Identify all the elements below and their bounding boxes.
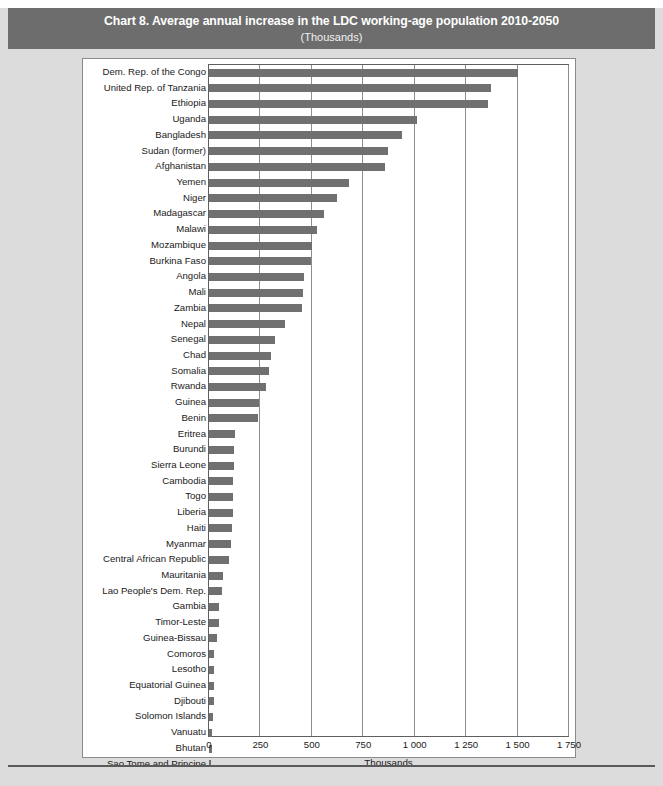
bar xyxy=(209,446,234,454)
bar xyxy=(209,619,219,627)
category-label: Senegal xyxy=(171,333,206,345)
bar-rows: Dem. Rep. of the CongoUnited Rep. of Tan… xyxy=(83,65,577,786)
bar-row: Afghanistan xyxy=(83,159,577,175)
bar-row: Malawi xyxy=(83,222,577,238)
category-label: Madagascar xyxy=(153,207,206,219)
bar xyxy=(209,430,235,438)
bar xyxy=(209,179,349,187)
category-label: Cambodia xyxy=(162,475,206,487)
category-label: Djibouti xyxy=(174,695,206,707)
bar xyxy=(209,603,219,611)
category-label: Sierra Leone xyxy=(151,459,206,471)
bar xyxy=(209,666,214,674)
category-label: Gambia xyxy=(172,600,206,612)
category-label: Rwanda xyxy=(171,380,206,392)
bar-row: Ethiopia xyxy=(83,96,577,112)
category-label: Uganda xyxy=(172,113,206,125)
category-label: Malawi xyxy=(176,223,206,235)
bar-row: Guinea xyxy=(83,395,577,411)
bar xyxy=(209,289,303,297)
bar xyxy=(209,163,385,171)
bar xyxy=(209,273,304,281)
category-label: Benin xyxy=(181,412,206,424)
page-top-margin xyxy=(0,0,663,8)
chart-title-band: Chart 8. Average annual increase in the … xyxy=(8,8,655,49)
bar xyxy=(209,304,302,312)
bar xyxy=(209,540,231,548)
bar-row: Zambia xyxy=(83,301,577,317)
category-label: Niger xyxy=(183,192,206,204)
category-label: Sudan (former) xyxy=(141,145,206,157)
bar xyxy=(209,210,324,218)
category-label: Timor-Leste xyxy=(155,616,206,628)
x-tick-label: 1 000 xyxy=(403,739,427,750)
bar xyxy=(209,509,233,517)
bar-row: Burkina Faso xyxy=(83,254,577,270)
bar-row: United Rep. of Tanzania xyxy=(83,81,577,97)
category-label: Eritrea xyxy=(178,428,206,440)
category-label: Burkina Faso xyxy=(149,255,206,267)
x-tick-label: 1 500 xyxy=(506,739,530,750)
category-label: Central African Republic xyxy=(103,553,206,565)
bar-row: Dem. Rep. of the Congo xyxy=(83,65,577,81)
bar-row: Central African Republic xyxy=(83,552,577,568)
bar-row: Myanmar xyxy=(83,537,577,553)
bar xyxy=(209,493,233,501)
bar-row: Eritrea xyxy=(83,427,577,443)
x-tick-label: 750 xyxy=(355,739,371,750)
x-tick-label: 250 xyxy=(252,739,268,750)
page-bottom-margin xyxy=(0,767,663,786)
category-label: Guinea-Bissau xyxy=(143,632,206,644)
bar-row: Gambia xyxy=(83,599,577,615)
x-tick-label: 1 250 xyxy=(454,739,478,750)
chart-frame: Dem. Rep. of the CongoUnited Rep. of Tan… xyxy=(82,58,576,758)
category-label: Afghanistan xyxy=(155,160,206,172)
category-label: Bangladesh xyxy=(155,129,206,141)
category-label: Lao People's Dem. Rep. xyxy=(102,585,206,597)
bar xyxy=(209,320,285,328)
bar xyxy=(209,226,317,234)
bar-row: Sierra Leone xyxy=(83,458,577,474)
category-label: Vanuatu xyxy=(171,726,206,738)
bar-row: Benin xyxy=(83,411,577,427)
bar-row: Mali xyxy=(83,285,577,301)
x-tick-label: 0 xyxy=(206,739,211,750)
bar-row: Niger xyxy=(83,191,577,207)
bar xyxy=(209,572,223,580)
chart-page: Chart 8. Average annual increase in the … xyxy=(0,0,663,786)
category-label: Mauritania xyxy=(161,569,206,581)
bar-row: Senegal xyxy=(83,332,577,348)
bar xyxy=(209,477,233,485)
bar-row: Chad xyxy=(83,348,577,364)
category-label: Equatorial Guinea xyxy=(129,679,206,691)
page-title: Chart 8. Average annual increase in the … xyxy=(8,8,655,28)
bar xyxy=(209,84,491,92)
category-label: Comoros xyxy=(167,648,206,660)
bar xyxy=(209,69,518,77)
category-label: Nepal xyxy=(181,318,206,330)
bar xyxy=(209,116,417,124)
bar xyxy=(209,729,212,737)
bar-row: Madagascar xyxy=(83,206,577,222)
bar xyxy=(209,100,488,108)
category-label: Mali xyxy=(188,286,206,298)
bar xyxy=(209,194,337,202)
bar xyxy=(209,587,222,595)
bar xyxy=(209,131,402,139)
category-label: Myanmar xyxy=(166,538,206,550)
category-label: Guinea xyxy=(175,396,206,408)
bar xyxy=(209,634,217,642)
bar xyxy=(209,399,259,407)
bar-row: Liberia xyxy=(83,505,577,521)
category-label: Solomon Islands xyxy=(135,710,206,722)
bar-row: Haiti xyxy=(83,521,577,537)
bar-row: Timor-Leste xyxy=(83,615,577,631)
bar-row: Equatorial Guinea xyxy=(83,678,577,694)
bar-row: Guinea-Bissau xyxy=(83,631,577,647)
bar-row: Uganda xyxy=(83,112,577,128)
bar xyxy=(209,367,269,375)
category-label: Lesotho xyxy=(172,663,206,675)
bar-row: Rwanda xyxy=(83,379,577,395)
category-label: Haiti xyxy=(187,522,206,534)
x-axis-tick-labels: 02505007501 0001 2501 5001 750 xyxy=(83,739,577,753)
